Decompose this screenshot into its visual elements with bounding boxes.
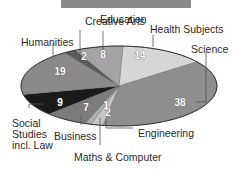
value-humanities: 19 [54,66,66,77]
value-science: 38 [174,97,186,108]
value-education: 8 [100,49,106,60]
value-health: 14 [134,50,146,61]
pie-slices [21,46,217,126]
value-business: 7 [83,102,89,113]
label-business: Business [54,130,97,142]
label-maths-computer: Maths & Computer [74,151,162,163]
label-health-subjects: Health Subjects [150,23,224,35]
label-education: Education [100,13,147,25]
value-maths: 1 [103,100,109,111]
pie-chart: Creative Arts Education Health Subjects … [0,0,238,169]
label-humanities: Humanities [21,36,74,48]
value-creative: 2 [81,51,87,62]
value-social: 9 [57,97,63,108]
label-engineering: Engineering [138,127,194,139]
label-science: Science [191,43,229,55]
label-social-3: incl. Law [12,139,53,151]
